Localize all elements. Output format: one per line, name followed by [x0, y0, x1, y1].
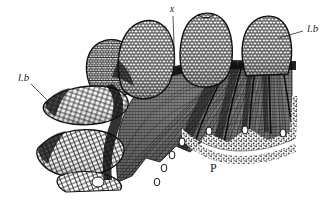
- histology-illustration: x l.b l.b P: [0, 0, 334, 200]
- upper-lobe-3: [180, 13, 232, 87]
- label-lb-left: l.b: [18, 71, 30, 83]
- figure-plate: x l.b l.b P: [0, 0, 334, 200]
- label-lb-right: l.b: [307, 22, 319, 34]
- label-x: x: [169, 3, 175, 14]
- label-p: P: [210, 161, 217, 175]
- upper-lobe-4: [242, 16, 292, 76]
- upper-lobe-2: [118, 21, 174, 99]
